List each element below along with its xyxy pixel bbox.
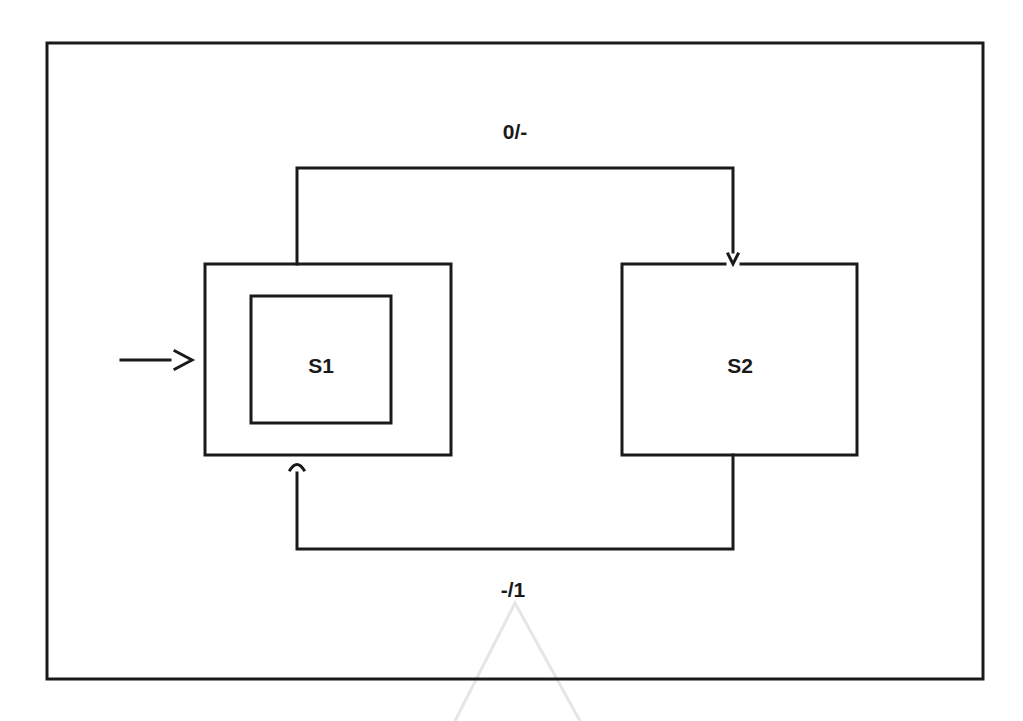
state-s1[interactable]: S1: [205, 264, 451, 455]
transition-s1-to-s2-label: 0/-: [503, 120, 528, 143]
transition-s2-to-s1-path: [297, 455, 733, 549]
initial-arrow: [121, 351, 192, 369]
state-s2[interactable]: S2: [622, 264, 857, 455]
transition-s2-to-s1[interactable]: -/1: [290, 455, 733, 601]
transition-s1-to-s2-path: [297, 168, 733, 264]
transition-s2-to-s1-label: -/1: [501, 578, 526, 601]
transition-s1-to-s2[interactable]: 0/-: [297, 120, 738, 264]
state-s1-label: S1: [308, 354, 334, 377]
transition-s1-to-s2-arrowhead-icon: [728, 254, 738, 264]
state-s2-label: S2: [727, 354, 753, 377]
initial-arrow-head-icon: [175, 351, 192, 369]
state-diagram: S1 S2 0/- -/1: [0, 0, 1023, 721]
watermark: [455, 603, 580, 721]
transition-s2-to-s1-arrowhead-icon: [290, 465, 304, 471]
